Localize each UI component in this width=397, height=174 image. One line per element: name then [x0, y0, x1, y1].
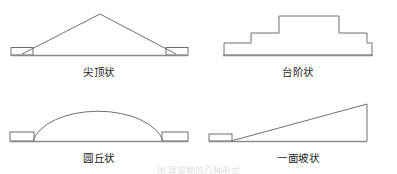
stepped-outline [224, 16, 372, 55]
left-base-block [10, 132, 34, 141]
figure-caption-text: 图 建筑物的几种形式 [0, 166, 397, 174]
diagram-panel-round-mound: 圆丘状 [0, 88, 198, 168]
diagram-panel-pointed-top: 尖顶状 [0, 2, 198, 82]
pointed-top-drawing [0, 2, 198, 64]
shape-label-pointed-top: 尖顶状 [0, 65, 198, 79]
ramp-outline [231, 104, 367, 141]
shape-label-single-slope: 一面坡状 [199, 151, 397, 165]
single-slope-drawing [199, 88, 397, 150]
figure-caption: 图 建筑物的几种形式 [0, 166, 397, 174]
figure-sheet: 尖顶状 台阶状 圆丘状 [0, 0, 397, 174]
right-base-block [162, 132, 188, 141]
dome-arc [33, 111, 163, 141]
diagram-panel-single-slope: 一面坡状 [199, 88, 397, 168]
triangle-outline [22, 14, 176, 54]
left-base-block [209, 134, 232, 141]
shape-label-stepped: 台阶状 [199, 65, 397, 79]
stepped-drawing [199, 2, 397, 64]
shape-label-round-mound: 圆丘状 [0, 151, 198, 165]
round-mound-drawing [0, 88, 198, 150]
right-base-block [166, 48, 188, 56]
diagram-panel-stepped: 台阶状 [199, 2, 397, 82]
